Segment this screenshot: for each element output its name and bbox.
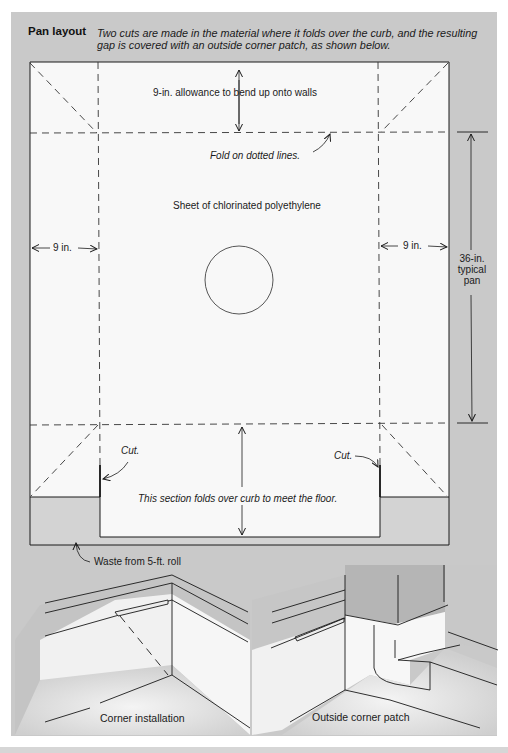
pan-dimension-line1: 36-in.	[453, 253, 491, 264]
pan-dimension-label: 36-in. typical pan	[453, 253, 491, 286]
pan-dimension-line3: pan	[453, 275, 491, 286]
cut-label-left: Cut.	[121, 445, 139, 456]
cut-label-right: Cut.	[334, 450, 352, 461]
curb-section-label: This section folds over curb to meet the…	[138, 493, 337, 504]
outside-corner-patch-caption: Outside corner patch	[312, 711, 409, 723]
sheet-material-label: Sheet of chlorinated polyethylene	[173, 200, 321, 211]
right-margin-label: 9 in.	[403, 240, 422, 251]
sheet-layout	[30, 62, 488, 562]
corner-installation-illustration	[15, 574, 250, 735]
wall-allowance-label: 9-in. allowance to bend up onto walls	[153, 87, 317, 98]
corner-installation-caption: Corner installation	[100, 712, 185, 724]
left-margin-label: 9 in.	[53, 242, 72, 253]
pan-layout-diagram	[0, 0, 508, 753]
outside-corner-patch-illustration	[252, 565, 498, 735]
pan-dimension-line2: typical	[453, 264, 491, 275]
fold-note-label: Fold on dotted lines.	[210, 150, 300, 161]
waste-label: Waste from 5-ft. roll	[94, 556, 181, 567]
